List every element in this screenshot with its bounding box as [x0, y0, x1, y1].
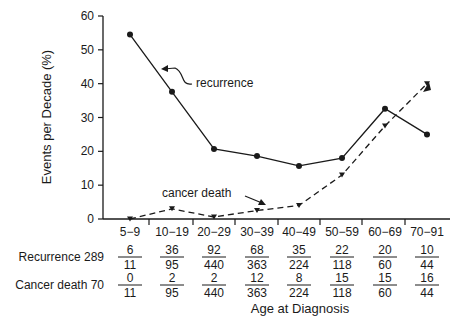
y-tick-label: 0 [87, 212, 94, 226]
x-tick-label: 40−49 [282, 225, 316, 239]
axes [98, 16, 450, 225]
denominator: 363 [247, 258, 267, 272]
y-axis-label: Events per Decade (%) [39, 50, 54, 184]
y-tick-label: 30 [81, 111, 95, 125]
data-point-circle [382, 106, 388, 112]
numerator: 12 [250, 271, 264, 285]
table-row-label: Cancer death 70 [15, 278, 104, 292]
cancer-death-annotation: cancer death [162, 186, 231, 200]
x-tick-label: 10−19 [155, 225, 189, 239]
numerator: 22 [335, 243, 349, 257]
data-point-triangle [382, 123, 388, 128]
numerator: 6 [127, 243, 134, 257]
x-tick-label: 20−29 [197, 225, 231, 239]
data-point-circle [296, 163, 302, 169]
arrowhead-icon [161, 65, 168, 72]
denominator: 60 [378, 286, 392, 300]
data-point-triangle [296, 203, 302, 208]
y-axis-tick-labels: 0102030405060 [81, 9, 95, 226]
x-tick-label: 60−69 [368, 225, 402, 239]
data-point-circle [254, 153, 260, 159]
numerator: 36 [165, 243, 179, 257]
denominator: 11 [124, 258, 137, 272]
numerator: 15 [378, 271, 392, 285]
table-row-label: Recurrence 289 [19, 250, 105, 264]
line-chart: 0102030405060 5−910−1920−2930−3940−4950−… [0, 0, 469, 322]
numerator: 15 [335, 271, 349, 285]
x-tick-label: 5−9 [120, 225, 141, 239]
numerator: 2 [211, 271, 218, 285]
denominator: 363 [247, 286, 267, 300]
denominator: 44 [420, 258, 434, 272]
data-point-circle [339, 155, 345, 161]
annotations: recurrencecancer death [161, 65, 266, 205]
fraction-table: Recurrence 28961136959244068363352242211… [15, 243, 439, 300]
y-tick-label: 40 [81, 77, 95, 91]
numerator: 10 [420, 243, 434, 257]
denominator: 95 [165, 286, 179, 300]
denominator: 60 [378, 258, 392, 272]
data-point-circle [169, 89, 175, 95]
numerator: 35 [292, 243, 306, 257]
data-point-circle [424, 131, 430, 137]
denominator: 224 [289, 286, 309, 300]
denominator: 11 [124, 286, 137, 300]
numerator: 8 [296, 271, 303, 285]
y-tick-label: 20 [81, 144, 95, 158]
recurrence-line [130, 35, 427, 166]
recurrence-arrow [164, 68, 192, 84]
numerator: 68 [250, 243, 264, 257]
cancer-death-arrow [245, 196, 262, 203]
data-point-circle [127, 32, 133, 38]
denominator: 118 [332, 258, 351, 272]
denominator: 224 [289, 258, 309, 272]
y-tick-label: 50 [81, 43, 95, 57]
numerator: 0 [127, 271, 134, 285]
numerator: 16 [420, 271, 434, 285]
denominator: 440 [204, 286, 224, 300]
x-tick-label: 70−91 [410, 225, 444, 239]
x-tick-label: 30−39 [240, 225, 274, 239]
numerator: 20 [378, 243, 392, 257]
numerator: 2 [169, 271, 176, 285]
data-point-circle [211, 146, 217, 152]
denominator: 440 [204, 258, 224, 272]
y-tick-label: 60 [81, 9, 95, 23]
denominator: 118 [332, 286, 351, 300]
x-tick-label: 50−59 [325, 225, 359, 239]
x-axis-tick-labels: 5−910−1920−2930−3940−4950−5960−6970−91 [120, 225, 444, 239]
x-axis-label: Age at Diagnosis [251, 301, 350, 316]
numerator: 92 [207, 243, 221, 257]
denominator: 44 [420, 286, 434, 300]
denominator: 95 [165, 258, 179, 272]
recurrence-annotation: recurrence [196, 76, 254, 90]
y-tick-label: 10 [81, 178, 95, 192]
